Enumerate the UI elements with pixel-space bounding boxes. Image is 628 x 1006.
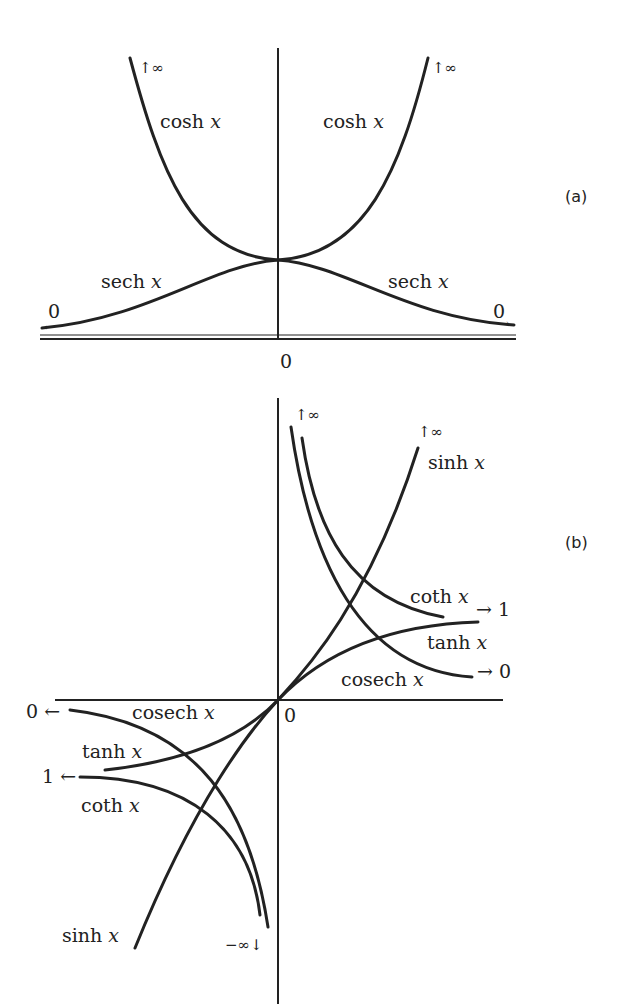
tanh-curve [105,622,478,770]
hyperbolic-functions-figure: ↑∞ ↑∞ cosh x cosh x sech x sech x 0 ← 0 … [0,0,628,1006]
cosh-right-curve [278,58,428,260]
left-one-limit: 1 ← [42,765,76,787]
cosech-right-label: cosech x [341,668,424,690]
sech-right-label: sech x [388,270,449,292]
coth-left-label: coth x [81,794,140,816]
cosech-top-limit: ↑∞ [295,406,320,424]
left-zero-limit: 0 ← [26,700,60,722]
panel-a-tag: (a) [565,187,587,206]
arrow-left-icon: ← [44,321,53,334]
sinh-top-label: sinh x [428,451,485,473]
cosh-left-curve [130,58,278,260]
cosh-left-limit: ↑∞ [139,59,164,77]
panel-b: ↑∞ ↑∞ sinh x coth x → 1 tanh x cosech x … [26,398,588,1004]
arrow-right-icon: → [500,317,509,330]
cosech-left-label: cosech x [132,701,215,723]
sinh-top-limit: ↑∞ [418,423,443,441]
sinh-curve [135,448,418,948]
cosh-left-label: cosh x [160,110,221,132]
tanh-right-label: tanh x [427,631,487,653]
panel-a-origin-label: 0 [280,350,292,372]
sech-left-zero: 0 [48,300,60,322]
coth-right-label: coth x [410,585,469,607]
cosh-right-label: cosh x [323,110,384,132]
right-zero-limit: → 0 [477,660,511,682]
sinh-bottom-label: sinh x [62,924,119,946]
right-one-limit: → 1 [476,598,510,620]
panel-b-origin-label: 0 [284,704,296,726]
panel-b-tag: (b) [565,533,588,552]
sech-left-label: sech x [101,270,162,292]
tanh-left-label: tanh x [82,740,142,762]
bottom-limit: −∞↓ [225,936,263,954]
panel-a: ↑∞ ↑∞ cosh x cosh x sech x sech x 0 ← 0 … [40,48,587,372]
cosh-right-limit: ↑∞ [432,59,457,77]
